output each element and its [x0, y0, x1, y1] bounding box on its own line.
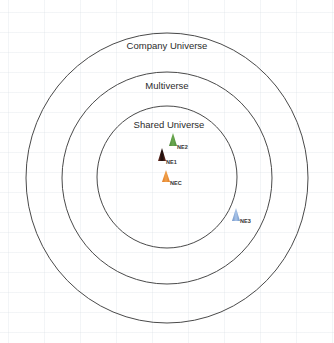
label-multiverse: Multiverse: [145, 81, 188, 91]
label-ne3: NE3: [240, 219, 251, 225]
label-company-universe: Company Universe: [127, 41, 208, 51]
label-ne2: NE2: [177, 145, 188, 151]
label-shared-universe: Shared Universe: [134, 120, 205, 130]
marker-nec-triangle-icon: [162, 170, 170, 182]
label-ne1: NE1: [166, 160, 177, 166]
diagram-canvas: Company Universe Multiverse Shared Unive…: [0, 0, 334, 343]
marker-ne2-triangle-icon: [169, 133, 177, 146]
marker-ne1-triangle-icon: [158, 148, 166, 161]
label-nec: NEC: [170, 181, 182, 187]
marker-ne3-triangle-icon: [232, 208, 240, 221]
diagram-svg: [0, 0, 334, 343]
